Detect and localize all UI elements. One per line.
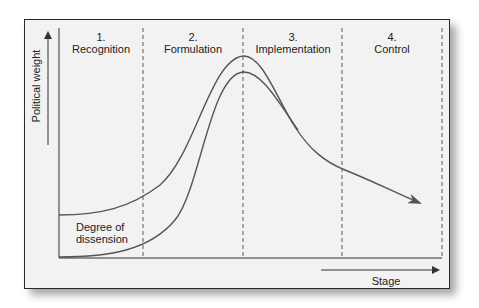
stage-label-recognition: 1. Recognition xyxy=(51,31,151,55)
stage-name: Recognition xyxy=(51,43,151,55)
dissension-label: Degree of dissension xyxy=(76,221,128,245)
stage-name: Control xyxy=(342,43,442,55)
dissension-label-line1: Degree of xyxy=(76,221,128,233)
stage-name: Formulation xyxy=(143,43,243,55)
stage-label-implementation: 3. Implementation xyxy=(243,31,343,55)
stage-number: 1. xyxy=(51,31,151,43)
dissension-label-line2: dissension xyxy=(76,233,128,245)
stage-number: 3. xyxy=(243,31,343,43)
stage-number: 4. xyxy=(342,31,442,43)
stage-name: Implementation xyxy=(243,43,343,55)
y-axis-label: Political weight xyxy=(30,50,42,123)
stage-number: 2. xyxy=(143,31,243,43)
x-axis-label: Stage xyxy=(370,275,402,287)
stage-label-control: 4. Control xyxy=(342,31,442,55)
stage-label-formulation: 2. Formulation xyxy=(143,31,243,55)
political-weight-curve xyxy=(59,56,420,215)
